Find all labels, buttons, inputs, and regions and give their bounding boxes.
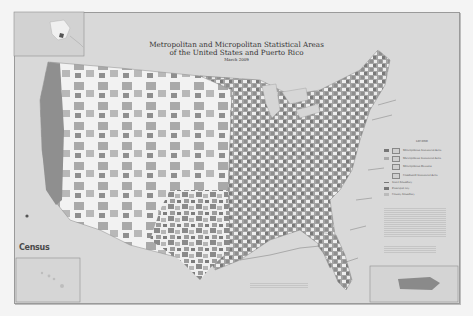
legend-item: Combined Statistical Area xyxy=(384,173,437,178)
legend-label: Combined Statistical Area xyxy=(403,174,437,177)
legend: LEGEND Metropolitan Statistical Area Mic… xyxy=(384,140,464,255)
legend-label: Metropolitan Statistical Area xyxy=(403,149,441,152)
legend-label: Principal city xyxy=(392,187,409,190)
metro-swatch-icon xyxy=(384,149,389,152)
micro-swatch-icon xyxy=(384,157,389,160)
swatch-box-icon xyxy=(392,148,400,154)
swatch-box-icon xyxy=(392,173,400,179)
county-swatch-icon xyxy=(384,193,389,196)
census-logo: Census xyxy=(19,243,49,252)
city-swatch-icon xyxy=(384,187,389,190)
legend-notes-text xyxy=(384,208,446,238)
map-date: March 2009 xyxy=(0,57,473,62)
swatch-box-icon xyxy=(392,164,400,170)
hawaii-inset xyxy=(16,258,80,302)
legend-label: State boundary xyxy=(392,181,412,184)
legend-label: County boundary xyxy=(392,193,415,196)
legend-item: Metropolitan Division xyxy=(384,164,432,169)
legend-item: Micropolitan Statistical Area xyxy=(384,156,441,161)
map-title-line2: of the United States and Puerto Rico xyxy=(0,48,473,57)
blank-swatch-icon xyxy=(384,174,389,177)
legend-source-text xyxy=(384,246,436,254)
legend-item: Principal city xyxy=(384,186,409,191)
legend-item: County boundary xyxy=(384,192,415,197)
legend-item: State boundary xyxy=(384,180,412,185)
legend-item: Metropolitan Statistical Area xyxy=(384,148,441,153)
blank-swatch-icon xyxy=(384,165,389,168)
swatch-box-icon xyxy=(392,156,400,162)
legend-label: Metropolitan Division xyxy=(403,165,432,168)
legend-heading: LEGEND xyxy=(416,140,428,143)
legend-label: Micropolitan Statistical Area xyxy=(403,157,441,160)
line-swatch-icon xyxy=(384,182,389,183)
map-credit-text xyxy=(250,283,308,288)
